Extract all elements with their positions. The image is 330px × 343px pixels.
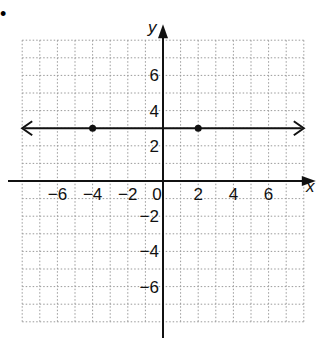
- y-tick-label: −4: [140, 242, 159, 261]
- x-tick-label: 4: [229, 185, 238, 204]
- data-point: [89, 125, 96, 132]
- y-tick-label: 4: [150, 102, 159, 121]
- y-axis-label: y: [147, 18, 158, 37]
- y-tick-label: −6: [140, 278, 159, 297]
- x-tick-label: 2: [193, 185, 202, 204]
- x-tick-label: 0: [152, 185, 161, 204]
- bullet-marker: •: [0, 4, 6, 24]
- data-point: [195, 125, 202, 132]
- y-tick-label: −2: [140, 207, 159, 226]
- y-axis-arrow-icon: [158, 24, 168, 38]
- x-tick-label: −6: [48, 185, 67, 204]
- x-axis-label: x: [305, 177, 315, 196]
- x-tick-label: −4: [83, 185, 102, 204]
- x-tick-label: −2: [118, 185, 137, 204]
- y-tick-label: 6: [150, 66, 159, 85]
- y-tick-label: 2: [150, 137, 159, 156]
- axes: [8, 24, 316, 338]
- coordinate-plane: • −6−4−20246642−2−4−6 y x: [0, 0, 330, 343]
- x-tick-label: 6: [264, 185, 273, 204]
